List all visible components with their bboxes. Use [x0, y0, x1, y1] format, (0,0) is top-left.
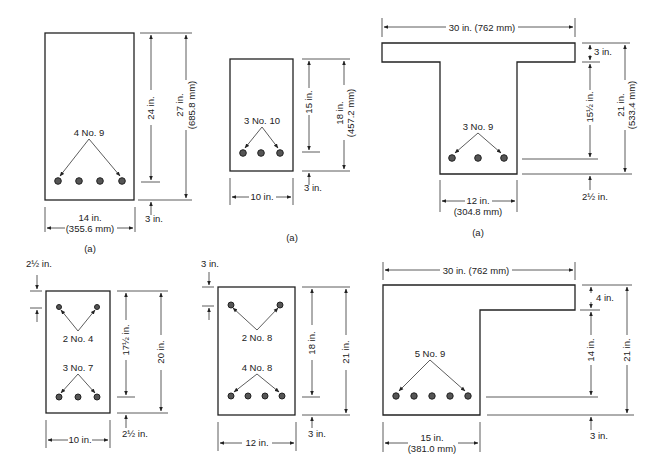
- bottom-bars: [393, 393, 471, 399]
- total-depth-label: 20 in.: [155, 340, 166, 363]
- section-l-beam: 5 No. 9 30 in. (762 mm) 4 in. 14 in. 21 …: [383, 262, 634, 454]
- bar-label: 3 No. 9: [463, 121, 494, 132]
- bottom-bar-label: 4 No. 8: [242, 362, 273, 373]
- top-bars: [57, 305, 100, 310]
- web-width-label: 12 in.: [466, 195, 489, 206]
- web-width-mm-label: (381.0 mm): [408, 443, 457, 454]
- section-doubly-reinforced-2: 2 No. 8 4 No. 8 3 in. 18 in. 21 in. 3 in…: [201, 258, 351, 451]
- cover-label: 2½ in.: [582, 191, 608, 202]
- bottom-bars: [55, 178, 126, 185]
- caption: (a): [84, 243, 96, 254]
- total-depth-label: 21 in.: [615, 93, 626, 116]
- bottom-bars: [449, 155, 508, 162]
- bottom-bars: [228, 393, 285, 399]
- flange-thickness-label: 4 in.: [596, 292, 614, 303]
- top-cover-label: 3 in.: [201, 258, 219, 269]
- top-cover-label: 2½ in.: [26, 258, 52, 269]
- web-width-mm-label: (304.8 mm): [454, 206, 503, 217]
- total-depth-label: 21 in.: [340, 340, 351, 363]
- section-rect-beam-1: 4 No. 9 24 in. 27 in. (685.8 mm) 3 in. 1…: [45, 33, 197, 254]
- caption: (a): [472, 227, 484, 238]
- section-t-beam: 3 No. 9 30 in. (762 mm) 3 in. 15½ in. 21…: [382, 18, 637, 238]
- caption: (a): [286, 232, 298, 243]
- web-width-label: 15 in.: [420, 432, 443, 443]
- bottom-cover-label: 3 in.: [308, 428, 326, 439]
- section-doubly-reinforced-1: 2 No. 4 3 No. 7 2½ in. 17½ in. 20 in. 2½…: [26, 258, 168, 448]
- bottom-bars: [56, 394, 100, 400]
- total-depth-label: 27 in.: [174, 93, 185, 116]
- bottom-bars: [240, 150, 284, 157]
- width-label: 12 in.: [245, 437, 268, 448]
- total-depth-mm-label: (533.4 mm): [626, 81, 637, 130]
- effective-depth-label: 15 in.: [303, 90, 314, 113]
- web-depth-label: 15½ in.: [584, 91, 595, 122]
- beam-sections-diagram: 4 No. 9 24 in. 27 in. (685.8 mm) 3 in. 1…: [0, 0, 665, 475]
- section-rect-beam-2: 3 No. 10 15 in. 18 in. (457.2 mm) 3 in. …: [230, 59, 356, 243]
- top-bar-label: 2 No. 8: [242, 332, 273, 343]
- cover-label: 3 in.: [590, 430, 608, 441]
- bar-label: 5 No. 9: [415, 348, 446, 359]
- width-label: 10 in.: [250, 191, 273, 202]
- width-label: 14 in.: [78, 212, 101, 223]
- top-bar-label: 2 No. 4: [63, 333, 94, 344]
- effective-depth-label: 18 in.: [306, 331, 317, 354]
- effective-depth-label: 24 in.: [145, 96, 156, 119]
- flange-thickness-label: 3 in.: [594, 46, 612, 57]
- bottom-bar-label: 3 No. 7: [63, 362, 94, 373]
- bar-label: 3 No. 10: [244, 115, 280, 126]
- cover-label: 3 in.: [145, 213, 163, 224]
- web-depth-label: 14 in.: [585, 338, 596, 361]
- total-depth-label: 21 in.: [621, 338, 632, 361]
- cover-label: 3 in.: [304, 182, 322, 193]
- beam-outline: [45, 33, 134, 200]
- total-depth-label: 18 in.: [334, 101, 345, 124]
- top-bars: [228, 302, 283, 308]
- flange-width-label: 30 in. (762 mm): [449, 22, 516, 33]
- total-depth-mm-label: (685.8 mm): [186, 81, 197, 130]
- bottom-cover-label: 2½ in.: [122, 428, 148, 439]
- total-depth-mm-label: (457.2 mm): [345, 89, 356, 138]
- bar-label: 4 No. 9: [74, 127, 105, 138]
- width-mm-label: (355.6 mm): [66, 223, 115, 234]
- flange-width-label: 30 in. (762 mm): [443, 265, 510, 276]
- width-label: 10 in.: [68, 434, 91, 445]
- effective-depth-label: 17½ in.: [120, 324, 131, 355]
